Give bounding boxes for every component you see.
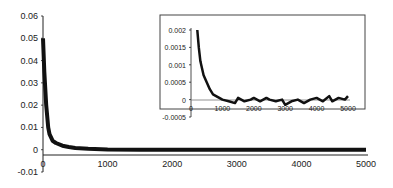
y-tick-label: 0.0005 xyxy=(165,79,187,86)
x-tick-label: 0 xyxy=(189,105,193,112)
chart-canvas: 0.060.050.040.030.020.010-0.01 010002000… xyxy=(0,0,393,188)
x-tick-label: 5000 xyxy=(356,159,376,169)
x-tick-labels: 010002000300040005000 xyxy=(40,159,376,169)
y-tick-label: 0 xyxy=(182,97,186,104)
y-tick-label: 0.002 xyxy=(168,27,186,34)
y-tick-label: 0.01 xyxy=(20,122,38,132)
x-tick-label: 2000 xyxy=(162,159,182,169)
x-tick-label: 3000 xyxy=(227,159,247,169)
x-tick-label: 2000 xyxy=(246,105,262,112)
x-tick-label: 5000 xyxy=(340,105,356,112)
y-tick-label: 0.05 xyxy=(20,33,38,43)
y-tick-label: 0.06 xyxy=(20,11,38,21)
y-tick-label: 0.03 xyxy=(20,78,38,88)
y-tick-label: 0.0015 xyxy=(165,44,187,51)
y-tick-label: 0.001 xyxy=(168,62,186,69)
x-tick-label: 4000 xyxy=(291,159,311,169)
y-tick-labels: 0.060.050.040.030.020.010-0.01 xyxy=(17,11,43,177)
inset-chart: 0.0020.00150.0010.00050-0.0005 010002000… xyxy=(160,15,365,121)
y-tick-label: 0.04 xyxy=(20,56,38,66)
x-tick-label: 4000 xyxy=(309,105,325,112)
y-tick-label: -0.0005 xyxy=(162,114,186,121)
x-tick-label: 3000 xyxy=(277,105,293,112)
x-tick-label: 1000 xyxy=(215,105,231,112)
y-tick-label: 0 xyxy=(33,145,38,155)
x-tick-label: 0 xyxy=(40,159,45,169)
y-tick-label: -0.01 xyxy=(17,167,38,177)
x-tick-label: 1000 xyxy=(98,159,118,169)
y-tick-label: 0.02 xyxy=(20,100,38,110)
